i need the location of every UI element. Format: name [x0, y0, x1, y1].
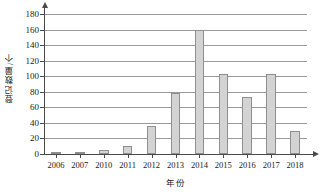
x-axis-title: 年份: [44, 176, 307, 188]
x-axis-arrow-icon: [313, 151, 319, 157]
y-axis-tick: [40, 154, 44, 155]
y-axis-tick-label: 120: [26, 56, 40, 66]
x-axis-tick-label: 2015: [215, 160, 232, 170]
bar: [195, 30, 205, 154]
x-axis-tick-label: 2006: [47, 160, 64, 170]
bar: [171, 93, 181, 154]
x-axis-tick: [271, 154, 272, 158]
y-axis-line: [44, 6, 45, 154]
bar: [242, 97, 252, 154]
x-axis-tick-label: 2007: [71, 160, 88, 170]
y-axis-tick: [40, 123, 44, 124]
y-axis-tick: [40, 138, 44, 139]
x-axis-tick-label: 2017: [263, 160, 280, 170]
x-axis-tick: [199, 154, 200, 158]
bar: [219, 74, 229, 154]
y-axis-tick-label: 20: [30, 133, 39, 143]
y-axis-tick: [40, 61, 44, 62]
y-axis-tick-label: 140: [26, 40, 40, 50]
y-axis-tick-label: 100: [26, 71, 40, 81]
x-axis-tick: [80, 154, 81, 158]
x-axis-tick-label: 2014: [191, 160, 208, 170]
y-axis-arrow-icon: [42, 2, 48, 8]
x-axis-tick: [223, 154, 224, 158]
x-axis-tick-label: 2018: [287, 160, 304, 170]
y-axis-tick: [40, 76, 44, 77]
y-axis-tick-label: 0: [35, 149, 40, 159]
chart-figure: 登记数量/个 020406080100120140160180 20062007…: [0, 0, 332, 194]
x-axis-tick-label: 2016: [239, 160, 256, 170]
gridline: [45, 45, 307, 46]
y-axis-tick-label: 180: [26, 9, 40, 19]
x-axis-tick-label: 2010: [95, 160, 112, 170]
y-axis-tick: [40, 30, 44, 31]
y-axis-tick-label: 40: [30, 118, 39, 128]
gridline: [45, 14, 307, 15]
y-axis-tick-label: 160: [26, 25, 40, 35]
x-axis-tick: [152, 154, 153, 158]
x-axis-tick: [56, 154, 57, 158]
y-axis-tick-label: 60: [30, 102, 39, 112]
y-axis-tick: [40, 14, 44, 15]
x-axis-tick-label: 2012: [143, 160, 160, 170]
x-axis-tick-label: 2013: [167, 160, 184, 170]
x-axis-tick: [128, 154, 129, 158]
x-axis-tick: [295, 154, 296, 158]
bar: [290, 131, 300, 154]
gridline: [45, 61, 307, 62]
x-axis-tick: [176, 154, 177, 158]
bar: [123, 146, 133, 154]
x-axis-tick: [247, 154, 248, 158]
plot-area: 020406080100120140160180 200620072010201…: [44, 14, 307, 154]
y-axis-tick: [40, 92, 44, 93]
x-axis-tick: [104, 154, 105, 158]
bar: [147, 126, 157, 154]
y-axis-tick: [40, 45, 44, 46]
x-axis-tick-label: 2011: [119, 160, 136, 170]
y-axis-title: 登记数量/个: [2, 0, 18, 155]
bar: [266, 74, 276, 154]
y-axis-tick-label: 80: [30, 87, 39, 97]
y-axis-tick: [40, 107, 44, 108]
gridline: [45, 30, 307, 31]
